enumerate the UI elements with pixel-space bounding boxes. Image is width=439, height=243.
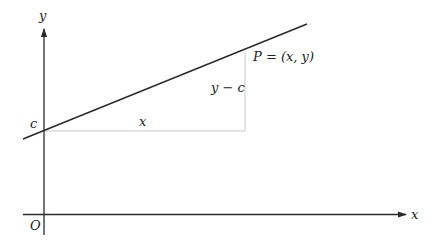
origin-label: O	[30, 218, 41, 233]
rise-label: y − c	[210, 80, 246, 95]
x-axis-label: x	[411, 207, 419, 222]
point-label: P = (x, y)	[252, 49, 314, 64]
y-axis-label: y	[38, 8, 47, 23]
intercept-label: c	[30, 116, 38, 131]
run-label: x	[139, 114, 147, 129]
straight-line	[23, 24, 307, 139]
line-intercept-diagram: y x O c x y − c P = (x, y)	[0, 0, 439, 243]
